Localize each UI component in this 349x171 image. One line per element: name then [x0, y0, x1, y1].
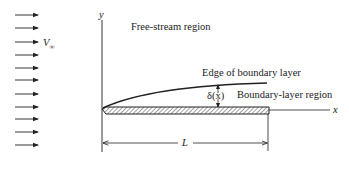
boundary-layer-thickness-label: δ(x) — [207, 90, 225, 102]
free-stream-region-label: Free-stream region — [131, 21, 211, 32]
x-axis-label: x — [332, 104, 338, 115]
boundary-layer-region-label: Boundary-layer region — [237, 89, 333, 100]
free-stream-velocity-label: V∞ — [43, 37, 54, 51]
boundary-layer-diagram: V∞ y Free-stream region Edge of boundary… — [0, 0, 349, 171]
edge-of-boundary-layer-label: Edge of boundary layer — [202, 67, 301, 78]
flat-plate — [102, 107, 269, 114]
free-stream-arrows — [15, 15, 38, 145]
y-axis-label: y — [98, 9, 104, 20]
plate-length-label: L — [181, 137, 188, 148]
